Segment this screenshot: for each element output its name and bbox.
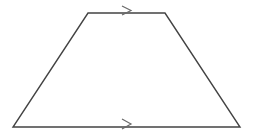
geometry-figure-canvas xyxy=(0,0,253,138)
trapezoid-outline xyxy=(13,13,240,127)
trapezoid-diagram xyxy=(0,0,253,138)
